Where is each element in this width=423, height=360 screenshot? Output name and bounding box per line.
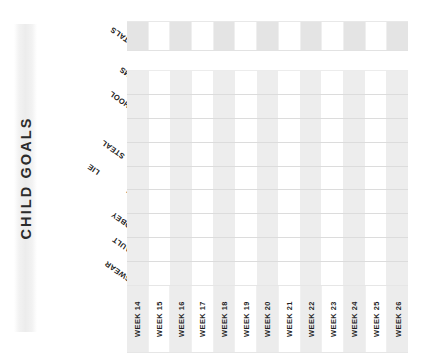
week-header-label: WEEK 23 bbox=[328, 301, 337, 337]
totals-cell[interactable] bbox=[301, 22, 323, 50]
totals-cell[interactable] bbox=[214, 22, 236, 50]
totals-cell[interactable] bbox=[344, 22, 366, 50]
week-header-label: WEEK 15 bbox=[155, 301, 164, 337]
grid-row-lines bbox=[127, 71, 408, 285]
totals-cell[interactable] bbox=[170, 22, 192, 50]
week-header-cell[interactable]: WEEK 21 bbox=[279, 286, 301, 352]
week-header-label: WEEK 18 bbox=[220, 301, 229, 337]
week-header-cell[interactable]: WEEK 16 bbox=[170, 286, 192, 352]
week-header-row: WEEK 14WEEK 15WEEK 16WEEK 17WEEK 18WEEK … bbox=[127, 285, 408, 353]
table-row[interactable] bbox=[127, 143, 408, 167]
child-goals-tracker-sheet: CHILD GOALS TOTALS TANTRUMS SCHOOL FIGHT… bbox=[0, 0, 423, 360]
week-header-cell[interactable]: WEEK 26 bbox=[387, 286, 408, 352]
totals-cell[interactable] bbox=[322, 22, 344, 50]
totals-cell[interactable] bbox=[127, 22, 149, 50]
sheet-title-band: CHILD GOALS bbox=[14, 24, 37, 332]
page-title: CHILD GOALS bbox=[18, 117, 34, 240]
row-label-steal: STEAL bbox=[99, 138, 126, 161]
week-header-cell[interactable]: WEEK 17 bbox=[192, 286, 214, 352]
goals-grid bbox=[127, 70, 408, 285]
week-header-label: WEEK 25 bbox=[371, 301, 380, 337]
row-label-lie: LIE bbox=[86, 162, 102, 177]
week-header-cell[interactable]: WEEK 23 bbox=[322, 286, 344, 352]
totals-cell[interactable] bbox=[279, 22, 301, 50]
table-row[interactable] bbox=[127, 190, 408, 214]
week-header-cell[interactable]: WEEK 18 bbox=[214, 286, 236, 352]
week-header-cell[interactable]: WEEK 25 bbox=[366, 286, 388, 352]
week-header-cell[interactable]: WEEK 20 bbox=[257, 286, 279, 352]
week-header-cell[interactable]: WEEK 14 bbox=[127, 286, 149, 352]
totals-cell[interactable] bbox=[235, 22, 257, 50]
totals-row bbox=[127, 21, 408, 51]
table-row[interactable] bbox=[127, 95, 408, 119]
week-header-cell[interactable]: WEEK 19 bbox=[235, 286, 257, 352]
week-header-label: WEEK 21 bbox=[285, 301, 294, 337]
week-header-cell[interactable]: WEEK 24 bbox=[344, 286, 366, 352]
week-header-label: WEEK 24 bbox=[350, 301, 359, 337]
week-header-label: WEEK 17 bbox=[198, 301, 207, 337]
table-row[interactable] bbox=[127, 238, 408, 262]
table-row[interactable] bbox=[127, 262, 408, 285]
week-header-cell[interactable]: WEEK 22 bbox=[301, 286, 323, 352]
week-header-label: WEEK 14 bbox=[133, 301, 142, 337]
table-row[interactable] bbox=[127, 214, 408, 238]
week-header-label: WEEK 20 bbox=[263, 301, 272, 337]
week-header-label: WEEK 22 bbox=[306, 301, 315, 337]
week-header-cell[interactable]: WEEK 15 bbox=[149, 286, 171, 352]
table-row[interactable] bbox=[127, 167, 408, 191]
week-header-label: WEEK 16 bbox=[176, 301, 185, 337]
totals-cell[interactable] bbox=[366, 22, 388, 50]
week-header-label: WEEK 26 bbox=[393, 301, 402, 337]
table-row[interactable] bbox=[127, 119, 408, 143]
table-row[interactable] bbox=[127, 71, 408, 95]
totals-cell[interactable] bbox=[192, 22, 214, 50]
week-header-label: WEEK 19 bbox=[241, 301, 250, 337]
totals-cell[interactable] bbox=[257, 22, 279, 50]
totals-cell[interactable] bbox=[387, 22, 408, 50]
totals-cell[interactable] bbox=[149, 22, 171, 50]
